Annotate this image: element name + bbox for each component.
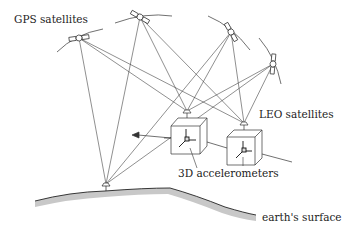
ground-receiver-icon bbox=[102, 183, 110, 191]
label-earth-surface: earth's surface bbox=[262, 211, 342, 223]
label-gps-satellites: GPS satellites bbox=[14, 13, 88, 25]
gps-satellites bbox=[69, 9, 277, 74]
orbit-arc-4 bbox=[259, 38, 281, 84]
earth-surface bbox=[35, 188, 256, 221]
gps-satellite-icon bbox=[269, 54, 277, 74]
gps-satellite-icon bbox=[130, 9, 150, 24]
leo-satellite-1 bbox=[171, 110, 207, 154]
gps-satellite-icon bbox=[69, 34, 90, 43]
diagram-canvas: GPS satellites LEO satellites 3D acceler… bbox=[0, 0, 344, 233]
gps-satellite-icon bbox=[223, 22, 238, 42]
label-leo-satellites: LEO satellites bbox=[259, 108, 334, 120]
label-3d-accelerometers: 3D accelerometers bbox=[178, 167, 279, 179]
orbit-arcs bbox=[57, 15, 281, 84]
leo-satellite-2 bbox=[227, 122, 262, 165]
motion-lines bbox=[132, 132, 292, 162]
